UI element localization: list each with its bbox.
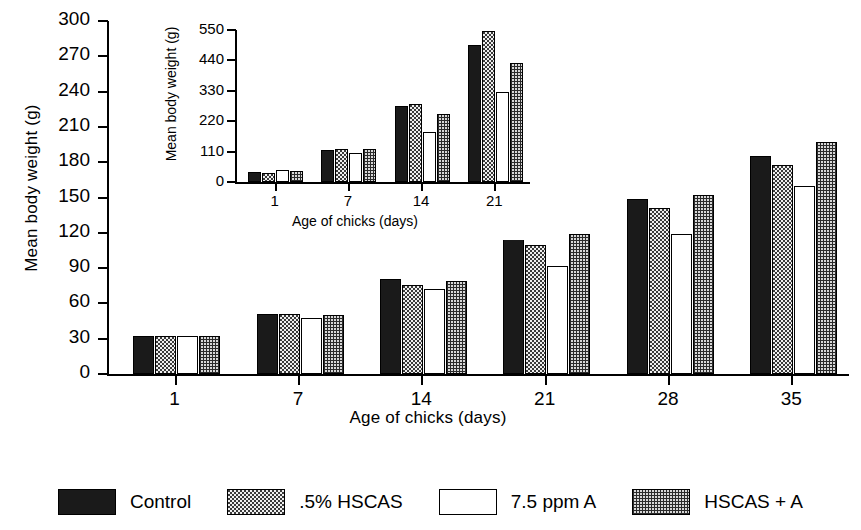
inset-bar	[290, 171, 303, 182]
main-bar	[671, 234, 692, 374]
main-y-tick-label: 180	[20, 149, 90, 171]
main-bar	[693, 195, 714, 374]
inset-plot-bars	[237, 30, 530, 182]
main-bar	[177, 336, 198, 374]
inset-x-tick	[421, 184, 423, 191]
main-x-tick-label: 28	[628, 388, 708, 410]
inset-x-tick-label: 14	[391, 192, 451, 209]
main-bar	[503, 239, 524, 374]
inset-y-tick	[227, 151, 236, 153]
inset-bar-chart: Mean body weight (g) 0110220330440550 17…	[150, 8, 555, 240]
main-x-axis-line	[107, 374, 849, 376]
legend-item: Control	[58, 489, 191, 515]
inset-bar	[321, 150, 334, 182]
legend-swatch-solid	[58, 489, 116, 515]
inset-bar	[409, 104, 422, 182]
main-bar	[199, 336, 220, 374]
main-x-axis-title: Age of chicks (days)	[228, 408, 628, 428]
inset-bar	[482, 31, 495, 182]
main-bar	[627, 199, 648, 374]
inset-y-tick	[227, 90, 236, 92]
main-bar	[446, 281, 467, 374]
inset-bar	[248, 172, 261, 183]
main-x-tick	[175, 376, 177, 385]
legend-item-label: 7.5 ppm A	[511, 491, 597, 513]
inset-y-tick-label: 0	[150, 172, 224, 189]
chart-legend: Control.5% HSCAS7.5 ppm AHSCAS + A	[0, 478, 861, 526]
main-y-tick-label: 300	[20, 8, 90, 30]
legend-swatch-white	[439, 489, 497, 515]
main-bar	[816, 142, 837, 374]
legend-item-label: HSCAS + A	[704, 491, 803, 513]
main-y-tick-label: 60	[20, 290, 90, 312]
inset-bar	[437, 114, 450, 182]
inset-y-tick-label: 440	[150, 50, 224, 67]
main-y-tick	[98, 126, 108, 128]
main-x-tick	[668, 376, 670, 385]
inset-bar	[423, 132, 436, 182]
inset-x-tick	[275, 184, 277, 191]
inset-bar	[395, 106, 408, 182]
inset-y-tick	[227, 59, 236, 61]
main-bar	[424, 289, 445, 374]
legend-item-label: .5% HSCAS	[299, 491, 402, 513]
main-y-tick-label: 120	[20, 220, 90, 242]
inset-y-tick	[227, 181, 236, 183]
inset-x-tick	[494, 184, 496, 191]
inset-y-tick-label: 330	[150, 81, 224, 98]
main-x-tick	[791, 376, 793, 385]
inset-bar	[262, 173, 275, 182]
inset-x-tick-label: 7	[318, 192, 378, 209]
inset-bar	[510, 63, 523, 182]
main-bar	[794, 186, 815, 374]
main-x-tick-label: 7	[258, 388, 338, 410]
inset-bar	[276, 170, 289, 182]
main-y-tick	[98, 161, 108, 163]
main-y-tick-label: 270	[20, 43, 90, 65]
main-bar	[323, 315, 344, 374]
inset-bar	[496, 92, 509, 182]
legend-item: 7.5 ppm A	[439, 489, 597, 515]
inset-bar	[468, 45, 481, 182]
inset-y-tick	[227, 29, 236, 31]
legend-swatch-dark	[632, 489, 690, 515]
main-y-tick	[98, 55, 108, 57]
main-x-tick	[545, 376, 547, 385]
main-bar	[525, 245, 546, 374]
main-y-tick-label: 150	[20, 185, 90, 207]
main-y-tick	[98, 302, 108, 304]
main-bar	[301, 318, 322, 374]
legend-item: HSCAS + A	[632, 489, 803, 515]
main-bar	[547, 266, 568, 374]
inset-x-axis-title: Age of chicks (days)	[205, 213, 505, 229]
main-y-tick-label: 240	[20, 79, 90, 101]
main-y-tick-label: 210	[20, 114, 90, 136]
inset-y-tick-label: 220	[150, 111, 224, 128]
main-bar	[649, 208, 670, 374]
legend-item-label: Control	[130, 491, 191, 513]
main-y-tick-label: 0	[20, 361, 90, 383]
main-x-tick	[298, 376, 300, 385]
main-x-tick-label: 21	[505, 388, 585, 410]
legend-swatch-light	[227, 489, 285, 515]
inset-bar	[349, 153, 362, 182]
main-y-tick	[98, 197, 108, 199]
main-bar	[772, 165, 793, 374]
inset-y-tick-label: 110	[150, 142, 224, 159]
main-x-tick-label: 14	[381, 388, 461, 410]
main-y-tick	[98, 91, 108, 93]
inset-x-tick-label: 1	[245, 192, 305, 209]
inset-bar	[363, 149, 376, 182]
main-y-tick	[98, 20, 108, 22]
main-y-tick	[98, 232, 108, 234]
inset-x-tick	[348, 184, 350, 191]
main-x-tick-label: 35	[751, 388, 831, 410]
main-bar	[402, 285, 423, 374]
main-bar	[279, 314, 300, 374]
main-bar	[380, 279, 401, 374]
inset-x-tick-label: 21	[464, 192, 524, 209]
main-y-tick-label: 30	[20, 326, 90, 348]
inset-x-axis-line	[235, 182, 530, 184]
legend-item: .5% HSCAS	[227, 489, 402, 515]
inset-y-tick-label: 550	[150, 20, 224, 37]
